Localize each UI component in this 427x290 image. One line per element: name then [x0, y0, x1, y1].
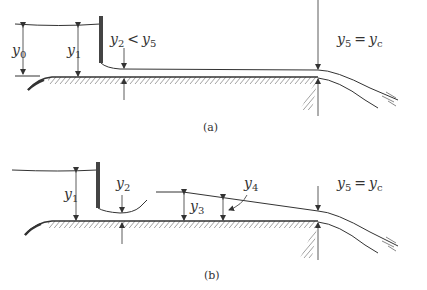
water-surface-upstream-b: [12, 170, 97, 171]
label-y4-b: y4: [243, 175, 258, 193]
panel-a: y0 y1 y2<y5 y5=yc (a): [11, 0, 398, 134]
label-y0-a: y0: [11, 42, 26, 60]
channel-bed-b: [25, 221, 318, 258]
sluice-gate-b: [96, 162, 100, 208]
sluice-gate-flow-figure: y0 y1 y2<y5 y5=yc (a) y1: [0, 0, 427, 290]
panel-b: y1 y2 y3 y4 y5=yc (b): [12, 162, 398, 282]
water-surface-upstream-a: [15, 24, 100, 26]
label-y3-b: y3: [189, 198, 204, 216]
label-y5-eq-yc-b: y5=yc: [336, 175, 383, 193]
label-y5-eq-yc-a: y5=yc: [336, 31, 383, 49]
figure-canvas: y0 y1 y2<y5 y5=yc (a) y1: [0, 0, 427, 290]
caption-a: (a): [203, 121, 218, 134]
water-surface-jet-b: [98, 200, 147, 213]
channel-bed-a: [28, 77, 318, 110]
caption-b: (b): [204, 269, 220, 282]
label-y1-a: y1: [66, 42, 81, 60]
label-y2-lt-y5-a: y2<y5: [109, 31, 156, 49]
label-y2-b: y2: [115, 175, 130, 193]
sluice-gate-a: [99, 16, 103, 63]
